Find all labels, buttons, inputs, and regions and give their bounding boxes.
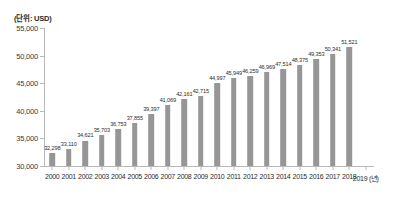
bar-slot[interactable]: 39,3972006 [143, 28, 160, 166]
x-axis-tick-label: 2003 [95, 173, 109, 180]
x-axis-tick-label: 2004 [111, 173, 125, 180]
bar-slot[interactable]: 48,3752015 [292, 28, 309, 166]
bar-rect[interactable] [313, 59, 319, 166]
x-axis-tick-label: 2015 [293, 173, 307, 180]
bar-slot[interactable]: 35,7032003 [94, 28, 111, 166]
bar-rect[interactable] [49, 153, 55, 166]
bar-rect[interactable] [198, 96, 204, 166]
x-axis-tick-mark [151, 167, 152, 170]
y-axis-tick-label: 35,000 [0, 134, 38, 143]
bar-value-label: 42,715 [193, 88, 209, 94]
x-axis-tick-mark [365, 167, 366, 170]
x-axis-tick-mark [85, 167, 86, 170]
x-axis-tick-label: 2006 [144, 173, 158, 180]
bar-slot[interactable]: 46,2592012 [242, 28, 259, 166]
bar-slot[interactable]: 2019 (년) [358, 28, 375, 166]
x-axis-tick-label: 2013 [260, 173, 274, 180]
bar-slot[interactable]: 34,6212002 [77, 28, 94, 166]
x-axis-tick-label: 2019 (년) [353, 173, 379, 183]
bar-slot[interactable]: 33,1102001 [61, 28, 78, 166]
x-axis-tick-label: 2011 [227, 173, 241, 180]
x-axis-tick-label: 2010 [210, 173, 224, 180]
x-axis-tick-label: 2000 [45, 173, 59, 180]
bar-chart-figure: (단위: USD) 55,00050,00045,00040,00035,000… [0, 0, 396, 198]
x-axis-tick-mark [349, 167, 350, 170]
x-axis-tick-label: 2002 [78, 173, 92, 180]
bar-value-label: 32,298 [44, 145, 60, 151]
x-axis-tick-mark [118, 167, 119, 170]
bar-value-label: 36,753 [110, 121, 126, 127]
bar-rect[interactable] [231, 78, 237, 166]
bar-rect[interactable] [165, 105, 171, 166]
bar-value-label: 46,259 [242, 68, 258, 74]
y-axis-tick-label: 55,000 [0, 24, 38, 33]
y-axis-tick-label: 30,000 [0, 162, 38, 171]
x-axis-tick-label: 2016 [309, 173, 323, 180]
bar-slot[interactable]: 46,9692013 [259, 28, 276, 166]
x-axis-tick-mark [283, 167, 284, 170]
bar-rect[interactable] [181, 99, 187, 166]
bar-slot[interactable]: 36,7532004 [110, 28, 127, 166]
bar-rect[interactable] [99, 135, 105, 166]
bar-value-label: 48,375 [292, 57, 308, 63]
x-axis-tick-mark [68, 167, 69, 170]
bar-rect[interactable] [346, 47, 352, 166]
x-axis-tick-label: 2009 [194, 173, 208, 180]
x-axis-tick-mark [184, 167, 185, 170]
bar-value-label: 35,703 [94, 127, 110, 133]
x-axis-tick-mark [250, 167, 251, 170]
bar-value-label: 42,161 [176, 91, 192, 97]
bar-slot[interactable]: 45,9492011 [226, 28, 243, 166]
bar-slot[interactable]: 41,0692007 [160, 28, 177, 166]
x-axis-tick-label: 2014 [276, 173, 290, 180]
bar-value-label: 49,353 [308, 51, 324, 57]
bar-slot[interactable]: 50,3412017 [325, 28, 342, 166]
y-axis-tick-mark [40, 166, 44, 167]
x-axis-tick-mark [217, 167, 218, 170]
bar-rect[interactable] [330, 54, 336, 166]
bar-slot[interactable]: 32,2982000 [44, 28, 61, 166]
x-axis-tick-mark [299, 167, 300, 170]
x-axis-tick-label: 2012 [243, 173, 257, 180]
bar-rect[interactable] [148, 114, 154, 166]
bar-slot[interactable]: 44,9972010 [209, 28, 226, 166]
x-axis-tick-mark [233, 167, 234, 170]
x-axis-tick-mark [316, 167, 317, 170]
bar-rect[interactable] [280, 69, 286, 166]
bar-rect[interactable] [115, 129, 121, 166]
bar-value-label: 47,514 [275, 61, 291, 67]
y-axis-tick-label: 45,000 [0, 79, 38, 88]
bar-value-label: 46,969 [259, 64, 275, 70]
x-axis-tick-mark [266, 167, 267, 170]
bar-rect[interactable] [214, 83, 220, 166]
x-axis-tick-mark [134, 167, 135, 170]
bar-slot[interactable]: 42,7152009 [193, 28, 210, 166]
bar-value-label: 50,341 [325, 46, 341, 52]
x-axis-tick-label: 2008 [177, 173, 191, 180]
y-axis-tick-label: 40,000 [0, 106, 38, 115]
x-axis-tick-mark [101, 167, 102, 170]
y-axis-tick-label: 50,000 [0, 51, 38, 60]
bar-value-label: 45,949 [226, 70, 242, 76]
bar-value-label: 34,621 [77, 132, 93, 138]
bar-rect[interactable] [264, 72, 270, 166]
unit-caption: (단위: USD) [14, 12, 52, 23]
x-axis-tick-mark [200, 167, 201, 170]
bar-rect[interactable] [132, 123, 138, 166]
bar-rect[interactable] [66, 149, 72, 166]
bar-slot[interactable]: 37,8552005 [127, 28, 144, 166]
x-axis-tick-label: 2001 [62, 173, 76, 180]
x-axis-tick-label: 2007 [161, 173, 175, 180]
bar-rect[interactable] [297, 65, 303, 166]
x-axis-line [44, 166, 374, 167]
bar-rect[interactable] [247, 76, 253, 166]
bar-slot[interactable]: 42,1612008 [176, 28, 193, 166]
bar-slot[interactable]: 49,3532016 [308, 28, 325, 166]
x-axis-tick-label: 2005 [128, 173, 142, 180]
bar-value-label: 51,521 [341, 39, 357, 45]
plot-area: 55,00050,00045,00040,00035,00030,000 32,… [44, 28, 374, 166]
x-axis-tick-mark [332, 167, 333, 170]
bar-slot[interactable]: 47,5142014 [275, 28, 292, 166]
bar-slot[interactable]: 51,5212018 [341, 28, 358, 166]
bar-rect[interactable] [82, 141, 88, 167]
